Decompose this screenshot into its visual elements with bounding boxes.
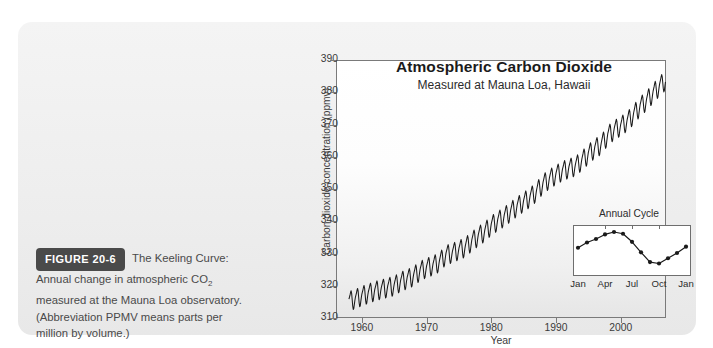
caption-line-3: (Abbreviation PPMV means parts per bbox=[36, 311, 222, 323]
annual-cycle-line bbox=[571, 208, 703, 306]
annual-cycle-point bbox=[585, 240, 589, 244]
annual-cycle-markers bbox=[576, 230, 688, 266]
annual-cycle-point bbox=[630, 240, 634, 244]
annual-cycle-point bbox=[648, 260, 652, 264]
caption-line-2: measured at the Mauna Loa observatory. bbox=[36, 294, 242, 306]
caption-line-1: Annual change in atmospheric CO bbox=[36, 273, 208, 285]
inset-x-tick-label: Apr bbox=[590, 278, 620, 289]
inset-x-tick-label: Oct bbox=[644, 278, 674, 289]
annual-cycle-point bbox=[657, 261, 661, 265]
annual-cycle-point bbox=[639, 250, 643, 254]
caption-line-4: million by volume.) bbox=[36, 327, 130, 339]
caption-body: Annual change in atmospheric CO2 measure… bbox=[36, 271, 288, 342]
annual-cycle-point bbox=[666, 256, 670, 260]
inset-x-tick-label: Jul bbox=[617, 278, 647, 289]
annual-cycle-point bbox=[612, 230, 616, 234]
inset-x-tick-mark bbox=[632, 225, 633, 229]
inset-x-tick-mark bbox=[659, 225, 660, 229]
figure-panel: FIGURE 20-6The Keeling Curve: Annual cha… bbox=[18, 22, 696, 335]
annual-cycle-point bbox=[675, 251, 679, 255]
caption-lead-text: The Keeling Curve: bbox=[132, 252, 229, 264]
annual-cycle-point bbox=[603, 232, 607, 236]
annual-cycle-inset-chart: Annual Cycle JanAprJulOctJan bbox=[571, 208, 703, 306]
figure-caption: FIGURE 20-6The Keeling Curve: Annual cha… bbox=[36, 248, 288, 342]
annual-cycle-point bbox=[594, 237, 598, 241]
annual-cycle-point bbox=[684, 245, 688, 249]
annual-cycle-point bbox=[576, 246, 580, 250]
inset-x-tick-label: Jan bbox=[671, 278, 701, 289]
annual-cycle-point bbox=[621, 232, 625, 236]
figure-number-badge: FIGURE 20-6 bbox=[36, 248, 125, 271]
inset-x-tick-mark bbox=[605, 225, 606, 229]
inset-x-tick-label: Jan bbox=[563, 278, 593, 289]
caption-subscript: 2 bbox=[208, 279, 212, 288]
